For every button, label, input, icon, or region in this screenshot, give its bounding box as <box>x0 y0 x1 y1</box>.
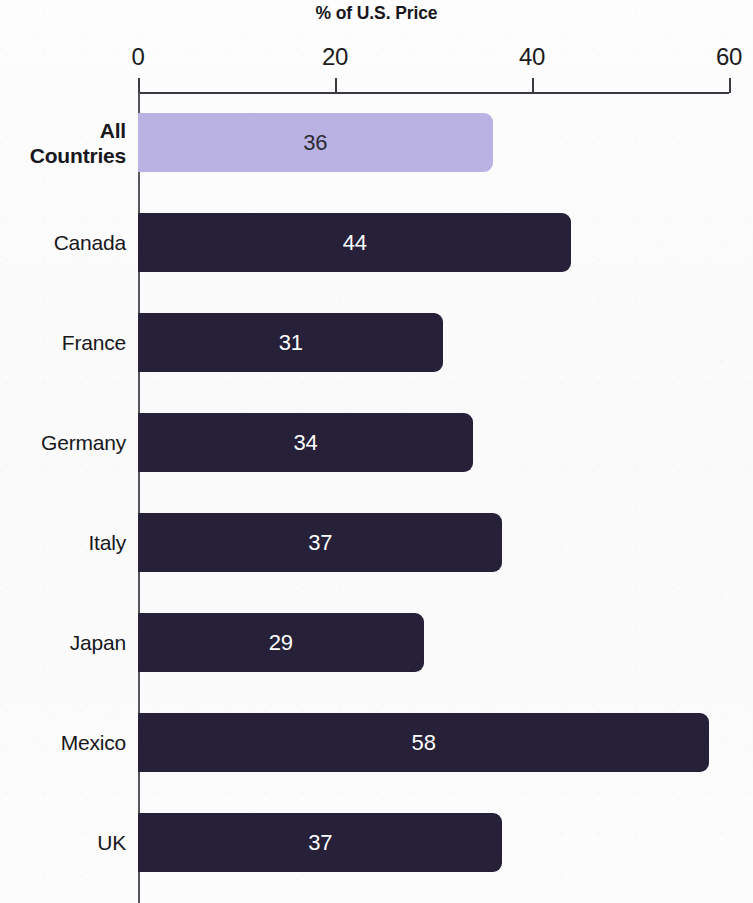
category-label-line: Canada <box>0 230 126 255</box>
category-label-line: All <box>0 118 126 143</box>
chart-row: France31 <box>0 313 753 372</box>
x-tick-mark-40 <box>532 78 534 93</box>
chart-canvas: % of U.S. Price 0204060 AllCountries36Ca… <box>0 0 753 903</box>
category-label-line: UK <box>0 830 126 855</box>
category-label-uk: UK <box>0 830 126 855</box>
category-label-line: Italy <box>0 530 126 555</box>
category-label-line: France <box>0 330 126 355</box>
category-label-line: Germany <box>0 430 126 455</box>
category-label-mexico: Mexico <box>0 730 126 755</box>
category-label-canada: Canada <box>0 230 126 255</box>
category-label-line: Countries <box>0 143 126 168</box>
chart-row: Italy37 <box>0 513 753 572</box>
chart-row: AllCountries36 <box>0 113 753 172</box>
chart-row: Germany34 <box>0 413 753 472</box>
plot-area: AllCountries36Canada44France31Germany34I… <box>0 0 753 903</box>
bar-value-uk: 37 <box>308 832 332 854</box>
category-label-italy: Italy <box>0 530 126 555</box>
x-tick-mark-20 <box>335 78 337 93</box>
category-label-all-countries: AllCountries <box>0 118 126 168</box>
bar-value-japan: 29 <box>269 632 293 654</box>
chart-row: Japan29 <box>0 613 753 672</box>
bar-value-canada: 44 <box>343 232 367 254</box>
bar-value-italy: 37 <box>308 532 332 554</box>
category-label-germany: Germany <box>0 430 126 455</box>
chart-row: Mexico58 <box>0 713 753 772</box>
chart-row: UK37 <box>0 813 753 872</box>
bar-value-mexico: 58 <box>412 732 436 754</box>
category-label-japan: Japan <box>0 630 126 655</box>
bar-value-france: 31 <box>279 332 303 354</box>
category-label-france: France <box>0 330 126 355</box>
category-label-line: Japan <box>0 630 126 655</box>
x-tick-mark-0 <box>138 78 140 93</box>
bar-value-germany: 34 <box>293 432 317 454</box>
bar-value-all-countries: 36 <box>303 132 327 154</box>
chart-row: Canada44 <box>0 213 753 272</box>
category-label-line: Mexico <box>0 730 126 755</box>
x-tick-mark-60 <box>729 78 731 93</box>
